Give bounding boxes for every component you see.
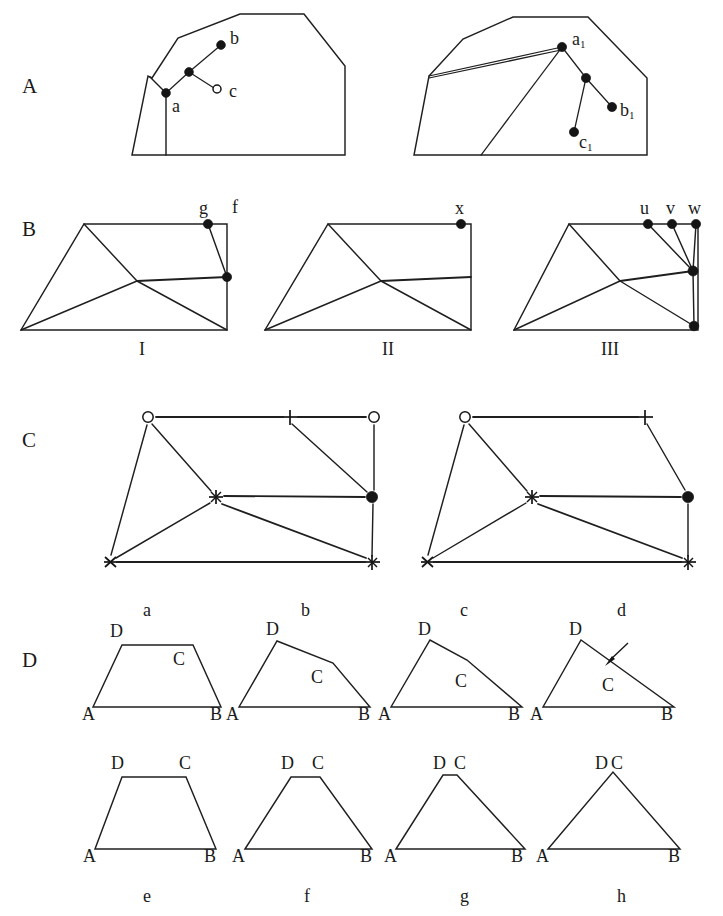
quad-a-vertex-C: C xyxy=(173,650,185,668)
mesh-edge-4 xyxy=(381,281,471,330)
quad-f-vertex-A: A xyxy=(232,847,245,865)
node-asterisk-center xyxy=(525,490,539,504)
vertex-label-c1-base: c xyxy=(579,132,587,152)
vertex-label-b1-sub: 1 xyxy=(629,109,635,121)
figure-root: A B C D a b c a1 b1 c1 g f x u v w I II … xyxy=(0,0,723,916)
vertex-label-b: b xyxy=(230,29,239,47)
mesh-edge-4 xyxy=(137,281,227,330)
quad-e-vertex-B: B xyxy=(204,847,216,865)
quad-a-vertex-B: B xyxy=(210,705,222,723)
node-g xyxy=(203,219,212,228)
panel-d-shape-d xyxy=(543,640,674,707)
panel-letter-a: A xyxy=(22,76,37,97)
mesh-edge-v-junction xyxy=(672,224,693,271)
edge-filledcircle-to-filledplus xyxy=(372,504,373,556)
quad-a-vertex-D: D xyxy=(110,622,123,640)
panel-b-subfigure-iii xyxy=(514,219,701,330)
node-filled-circle-right xyxy=(682,491,693,502)
subfigure-label-h: h xyxy=(617,887,626,905)
edge-circle-to-cross xyxy=(428,425,464,555)
vertex-label-x: x xyxy=(455,199,464,217)
node-bottom-right xyxy=(689,321,699,331)
node-asterisk-center xyxy=(209,490,223,504)
quad-d-vertex-B: B xyxy=(661,705,673,723)
quad-f-vertex-D: D xyxy=(281,754,294,772)
quad-c-vertex-C: C xyxy=(455,672,467,690)
node-open-circle-top-left xyxy=(143,412,153,422)
edge-asterisk-to-cross xyxy=(433,503,526,558)
subfigure-label-c: c xyxy=(460,601,468,619)
node-u xyxy=(643,219,652,228)
edge-asterisk-to-filledplus xyxy=(222,504,366,558)
subfigure-label-i: I xyxy=(139,340,145,358)
quadrilateral-outline xyxy=(93,645,221,707)
edge-plus-to-filledcircle xyxy=(292,424,367,492)
quad-d-vertex-D: D xyxy=(569,620,582,638)
figure-vector-layer xyxy=(0,0,723,916)
point-branch xyxy=(185,68,194,77)
subfigure-label-d: d xyxy=(617,601,626,619)
quad-h-vertex-D: D xyxy=(595,754,608,772)
quadrilateral-outline xyxy=(245,777,372,849)
vertex-label-u: u xyxy=(640,199,649,217)
mesh-outline xyxy=(21,224,227,330)
node-filled-circle-right xyxy=(366,491,377,502)
quadrilateral-outline xyxy=(95,777,216,849)
tree-edge-branch-b xyxy=(189,45,221,72)
panel-d-shape-e xyxy=(95,777,216,849)
mesh-edge-2 xyxy=(514,281,620,330)
panel-letter-c: C xyxy=(22,430,36,451)
panel-letter-d: D xyxy=(22,650,37,671)
mesh-edge-2 xyxy=(265,281,381,330)
panel-c-right-graph xyxy=(421,410,696,570)
edge-plus-to-filledcircle xyxy=(647,424,685,490)
panel-d-shape-h xyxy=(548,772,680,849)
node-open-circle-top-right xyxy=(369,412,379,422)
node-plus-top-right xyxy=(638,410,653,425)
quad-h-vertex-A: A xyxy=(536,847,549,865)
quad-g-vertex-D: D xyxy=(433,754,446,772)
panel-d-shape-f xyxy=(245,777,372,849)
subfigure-label-b: b xyxy=(301,601,310,619)
mesh-edge-g-to-f xyxy=(208,224,227,277)
vertex-label-v: v xyxy=(666,199,675,217)
mesh-edge-3 xyxy=(620,271,693,281)
mesh-edge-1 xyxy=(328,224,381,281)
node-cross-bottom-left xyxy=(421,557,434,567)
subfigure-label-f: f xyxy=(304,887,310,905)
node-f-lower xyxy=(222,272,231,281)
vertex-label-w: w xyxy=(688,199,701,217)
edge-asterisk-to-filledcircle xyxy=(540,496,681,497)
quad-b-vertex-D: D xyxy=(266,620,279,638)
edge-circle-to-asterisk xyxy=(469,424,527,491)
mesh-edge-w-junction xyxy=(693,224,696,271)
vertex-label-a1-sub: 1 xyxy=(580,38,586,50)
panel-letter-b: B xyxy=(22,219,36,240)
tree-edge-branch-b1 xyxy=(586,78,612,107)
tree-edge-corner-a1-upper xyxy=(429,47,562,76)
quad-d-vertex-C: C xyxy=(602,676,614,694)
node-v xyxy=(667,219,676,228)
quad-c-vertex-B: B xyxy=(508,705,520,723)
subfigure-label-e: e xyxy=(143,887,151,905)
quad-d-vertex-A: A xyxy=(530,705,543,723)
vertex-label-g: g xyxy=(199,199,208,217)
mesh-edge-4 xyxy=(620,281,694,326)
panel-c-left-graph xyxy=(104,410,380,570)
quad-e-vertex-A: A xyxy=(83,847,96,865)
mesh-edge-3 xyxy=(381,277,471,281)
quad-g-vertex-C: C xyxy=(454,754,466,772)
vertex-label-b1: b1 xyxy=(620,101,635,119)
vertex-label-f: f xyxy=(232,198,238,216)
quadrilateral-outline xyxy=(396,775,525,849)
quad-b-vertex-A: A xyxy=(226,705,239,723)
edge-asterisk-to-filledplus xyxy=(538,504,682,558)
point-c xyxy=(213,85,221,93)
mesh-edge-u-junction xyxy=(648,224,693,271)
subfigure-label-ii: II xyxy=(382,340,394,358)
mesh-edge-junction-bottom xyxy=(693,271,694,326)
subfigure-label-iii: III xyxy=(601,340,619,358)
subfigure-label-a: a xyxy=(143,601,151,619)
vertex-label-a: a xyxy=(172,97,180,115)
quad-e-vertex-D: D xyxy=(111,754,124,772)
